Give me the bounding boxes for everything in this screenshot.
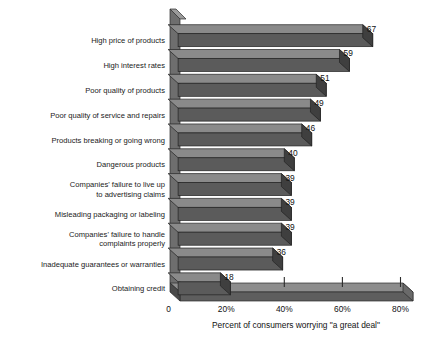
bar-value-label: 67 bbox=[367, 24, 377, 34]
bar-top-face bbox=[168, 198, 291, 207]
x-tick-label: 20% bbox=[218, 304, 235, 314]
bar-value-label: 18 bbox=[224, 272, 234, 282]
bar-top-face bbox=[168, 25, 373, 34]
bar bbox=[168, 198, 291, 220]
bar-front-face bbox=[178, 257, 283, 270]
bars-layer bbox=[168, 25, 373, 295]
bar-value-label: 39 bbox=[285, 173, 295, 183]
bar-value-label: 51 bbox=[320, 73, 330, 83]
x-tick-label: 60% bbox=[334, 304, 351, 314]
category-label: Poor quality of service and repairs bbox=[50, 111, 165, 120]
bar bbox=[168, 149, 294, 171]
x-tick-label: 40% bbox=[276, 304, 293, 314]
category-label: Products breaking or going wrong bbox=[51, 136, 165, 145]
bar bbox=[168, 174, 291, 196]
category-label: Obtaining credit bbox=[112, 284, 166, 293]
bar bbox=[168, 248, 283, 270]
x-tick-labels: 020%40%60%80% bbox=[166, 304, 409, 314]
bar-value-label: 39 bbox=[285, 197, 295, 207]
bar-front-face bbox=[178, 232, 291, 245]
bar-top-face bbox=[168, 99, 320, 108]
bar bbox=[168, 25, 373, 47]
bar-front-face bbox=[178, 183, 291, 196]
bar-value-label: 46 bbox=[306, 123, 316, 133]
bar-front-face bbox=[178, 158, 294, 171]
bar bbox=[168, 223, 291, 245]
bar-top-face bbox=[168, 124, 312, 133]
bar-value-label: 59 bbox=[343, 48, 353, 58]
category-label: High interest rates bbox=[103, 61, 165, 70]
bar-value-label: 40 bbox=[288, 148, 298, 158]
x-tick-label: 0 bbox=[166, 304, 171, 314]
bar bbox=[168, 124, 312, 146]
bar-top-face bbox=[168, 49, 349, 58]
bar-front-face bbox=[178, 34, 373, 47]
category-label: complaints properly bbox=[99, 239, 165, 248]
bar bbox=[168, 74, 326, 96]
bar bbox=[168, 49, 349, 71]
bar-chart-figure: 6759514946403939393618 High price of pro… bbox=[0, 0, 425, 337]
bar-front-face bbox=[178, 58, 349, 71]
bar-top-face bbox=[168, 248, 283, 257]
bar-front-face bbox=[178, 108, 320, 121]
bar-front-face bbox=[178, 133, 312, 146]
category-label: Misleading packaging or labeling bbox=[55, 210, 165, 219]
category-axis-labels: High price of productsHigh interest rate… bbox=[41, 36, 166, 293]
bar-value-label: 36 bbox=[277, 247, 287, 257]
category-label: Dangerous products bbox=[97, 160, 166, 169]
bar-top-face bbox=[168, 149, 294, 158]
x-tick-label: 80% bbox=[392, 304, 409, 314]
category-label: Companies' failure to live up bbox=[70, 180, 165, 189]
category-label: Inadequate guarantees or warranties bbox=[41, 260, 165, 269]
category-label: to advertising claims bbox=[96, 190, 165, 199]
category-label: Poor quality of products bbox=[85, 86, 165, 95]
bar-value-label: 49 bbox=[314, 98, 324, 108]
bar-front-face bbox=[178, 207, 291, 220]
bar-top-face bbox=[168, 174, 291, 183]
chart-canvas: 6759514946403939393618 High price of pro… bbox=[0, 0, 425, 337]
bar-front-face bbox=[178, 83, 326, 96]
bar bbox=[168, 99, 320, 121]
bar-value-label: 39 bbox=[285, 222, 295, 232]
bar-top-face bbox=[168, 74, 326, 83]
category-label: Companies' failure to handle bbox=[69, 230, 165, 239]
bar-top-face bbox=[168, 223, 291, 232]
category-label: High price of products bbox=[91, 36, 165, 45]
x-axis-title: Percent of consumers worrying "a great d… bbox=[212, 320, 380, 330]
